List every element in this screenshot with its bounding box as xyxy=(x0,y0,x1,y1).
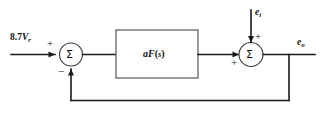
close-paren: ) xyxy=(161,48,164,59)
gain-block-label: aF(s) xyxy=(143,49,165,59)
disturbance-wire xyxy=(248,10,254,43)
summing-junction-2-sigma: Σ xyxy=(246,49,253,60)
input-arrowhead xyxy=(49,52,56,58)
junction1-input-plus-sign: + xyxy=(47,38,53,49)
junction2-forward-plus-sign: + xyxy=(231,57,237,68)
disturbance-subscript: i xyxy=(259,11,261,19)
input-gain-number: 8.7 xyxy=(10,32,22,42)
output-subscript: o xyxy=(301,41,305,49)
summing-junction-1-sigma: Σ xyxy=(66,49,73,60)
input-voltage-subscript: r xyxy=(28,36,31,44)
input-signal-label: 8.7Vr xyxy=(10,33,31,44)
junction1-feedback-minus-sign: − xyxy=(58,66,64,77)
transfer-function-symbol: F xyxy=(148,48,155,59)
block-diagram-canvas: 8.7Vr + Σ − aF(s) + Σ + ei eo xyxy=(0,0,322,117)
output-signal-label: eo xyxy=(297,38,305,49)
disturbance-arrowhead xyxy=(248,36,254,43)
input-wire xyxy=(11,52,55,58)
junction2-disturbance-plus-sign: + xyxy=(255,31,261,42)
disturbance-signal-label: ei xyxy=(255,8,261,19)
feedback-arrowhead xyxy=(68,69,74,76)
